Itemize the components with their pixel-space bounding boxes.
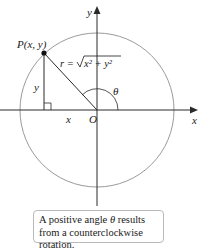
- caption-text-1: A positive angle: [39, 214, 110, 225]
- y-axis-arrow-icon: [94, 6, 101, 14]
- point-label: P(x, y): [16, 38, 47, 51]
- point-p: [41, 50, 46, 55]
- x-axis-arrow-icon: [190, 107, 198, 114]
- caption-box: A positive angle θ results from a counte…: [33, 210, 164, 243]
- y-axis-label: y: [86, 6, 92, 18]
- vertical-leg-label: y: [33, 81, 39, 93]
- origin-label: O: [89, 113, 97, 125]
- radius-expression: x² + y²: [83, 58, 113, 69]
- radius-label: r =: [60, 58, 74, 69]
- horizontal-leg-label: x: [65, 113, 71, 125]
- right-angle-icon: [44, 103, 51, 110]
- x-axis-label: x: [191, 114, 197, 126]
- angle-label: θ: [113, 85, 119, 97]
